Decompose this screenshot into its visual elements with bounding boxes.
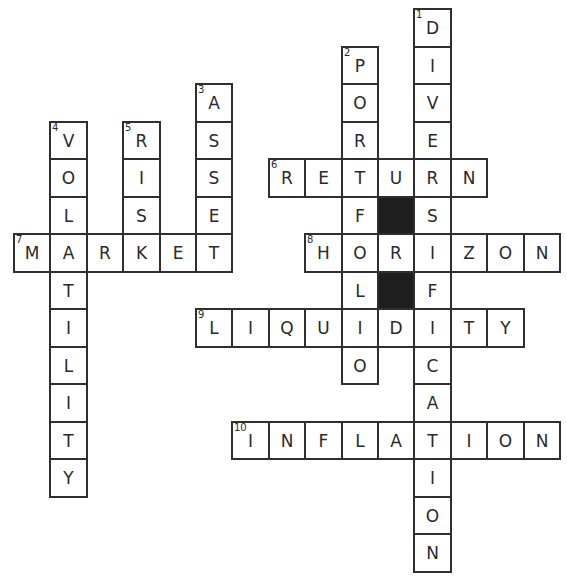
crossword-cell[interactable]: T [49, 271, 88, 310]
cell-letter: O [488, 235, 523, 271]
crossword-cell[interactable]: F [304, 421, 343, 460]
crossword-cell[interactable]: 6R [268, 158, 306, 198]
crossword-cell[interactable]: L [341, 421, 379, 460]
crossword-cell[interactable]: I [413, 46, 452, 85]
crossword-cell[interactable]: 1D [413, 8, 452, 48]
crossword-cell[interactable]: I [413, 233, 452, 273]
cell-letter: N [270, 423, 304, 458]
crossword-cell[interactable]: I [413, 458, 452, 498]
crossword-cell[interactable]: E [304, 158, 343, 198]
crossword-cell[interactable]: L [49, 196, 88, 235]
crossword-cell[interactable]: T [49, 421, 88, 460]
crossword-cell[interactable]: N [268, 421, 306, 460]
crossword-cell[interactable]: T [413, 421, 452, 460]
crossword-cell[interactable]: 2P [341, 46, 379, 85]
cell-letter: V [415, 85, 450, 121]
crossword-cell[interactable]: O [486, 421, 525, 460]
crossword-cell[interactable]: L [341, 271, 379, 310]
crossword-cell[interactable]: T [341, 158, 379, 198]
crossword-cell[interactable]: N [523, 233, 561, 273]
cell-letter: O [415, 498, 450, 533]
cell-letter: R [343, 123, 377, 158]
crossword-cell[interactable]: 10I [231, 421, 270, 460]
crossword-cell[interactable]: I [49, 383, 88, 423]
crossword-cell[interactable]: R [377, 233, 415, 273]
blocked-cell [377, 271, 415, 310]
crossword-cell[interactable]: 7M [13, 233, 51, 273]
crossword-cell[interactable]: N [450, 158, 488, 198]
cell-letter: O [51, 160, 86, 196]
crossword-cell[interactable]: T [450, 308, 488, 348]
crossword-cell[interactable]: A [49, 233, 88, 273]
crossword-cell[interactable]: O [413, 496, 452, 535]
crossword-cell[interactable]: I [122, 158, 161, 198]
cell-letter: O [343, 235, 377, 271]
crossword-cell[interactable]: O [341, 346, 379, 385]
crossword-cell[interactable]: R [86, 233, 124, 273]
cell-letter: I [415, 310, 450, 346]
cell-letter: I [51, 385, 86, 421]
cell-letter: I [233, 423, 268, 458]
crossword-cell[interactable]: 8H [304, 233, 343, 273]
crossword-cell[interactable]: 3A [195, 83, 233, 123]
cell-letter: I [415, 235, 450, 271]
cell-letter: U [379, 160, 413, 196]
crossword-cell[interactable]: S [195, 121, 233, 160]
crossword-cell[interactable]: A [413, 383, 452, 423]
cell-letter: P [343, 48, 377, 83]
crossword-cell[interactable]: Y [49, 458, 88, 498]
crossword-cell[interactable]: Y [486, 308, 525, 348]
crossword-cell[interactable]: S [122, 196, 161, 235]
cell-letter: T [452, 310, 486, 346]
crossword-cell[interactable]: L [49, 346, 88, 385]
crossword-cell[interactable]: Z [450, 233, 488, 273]
crossword-cell[interactable]: O [341, 233, 379, 273]
crossword-cell[interactable]: S [413, 196, 452, 235]
crossword-cell[interactable]: E [159, 233, 197, 273]
cell-letter: L [343, 273, 377, 308]
crossword-cell[interactable]: I [413, 308, 452, 348]
cell-letter: U [306, 310, 341, 346]
crossword-cell[interactable]: I [231, 308, 270, 348]
cell-letter: K [124, 235, 159, 271]
crossword-cell[interactable]: 5R [122, 121, 161, 160]
crossword-cell[interactable]: Q [268, 308, 306, 348]
crossword-cell[interactable]: I [341, 308, 379, 348]
cell-letter: R [415, 160, 450, 196]
crossword-cell[interactable]: R [341, 121, 379, 160]
crossword-cell[interactable]: V [413, 83, 452, 123]
crossword-cell[interactable]: S [195, 158, 233, 198]
crossword-cell[interactable]: E [413, 121, 452, 160]
cell-letter: L [197, 310, 231, 346]
crossword-cell[interactable]: F [341, 196, 379, 235]
cell-letter: T [51, 423, 86, 458]
crossword-cell[interactable]: T [195, 233, 233, 273]
crossword-cell[interactable]: O [486, 233, 525, 273]
cell-letter: I [415, 460, 450, 496]
crossword-cell[interactable]: A [377, 421, 415, 460]
crossword-cell[interactable]: D [377, 308, 415, 348]
cell-letter: M [15, 235, 49, 271]
crossword-cell[interactable]: K [122, 233, 161, 273]
crossword-cell[interactable]: R [413, 158, 452, 198]
crossword-cell[interactable]: E [195, 196, 233, 235]
crossword-cell[interactable]: U [304, 308, 343, 348]
crossword-cell[interactable]: N [523, 421, 561, 460]
crossword-cell[interactable]: C [413, 346, 452, 385]
crossword-cell[interactable]: O [341, 83, 379, 123]
crossword-cell[interactable]: F [413, 271, 452, 310]
crossword-cell[interactable]: O [49, 158, 88, 198]
cell-letter: T [415, 423, 450, 458]
crossword-cell[interactable]: I [49, 308, 88, 348]
crossword-cell[interactable]: 9L [195, 308, 233, 348]
cell-letter: S [415, 198, 450, 233]
crossword-cell[interactable]: 4V [49, 121, 88, 160]
cell-letter: E [415, 123, 450, 158]
crossword-cell[interactable]: I [450, 421, 488, 460]
cell-letter: I [452, 423, 486, 458]
crossword-cell[interactable]: U [377, 158, 415, 198]
cell-letter: O [343, 85, 377, 121]
cell-letter: D [379, 310, 413, 346]
crossword-cell[interactable]: N [413, 533, 452, 573]
crossword-board: 1DIVERSIFICATION2PORTFOLIO3ASSET4VOLATIL… [0, 0, 567, 582]
